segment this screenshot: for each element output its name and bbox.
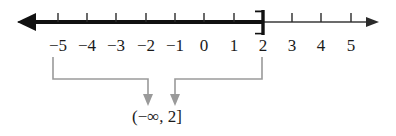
- leader-from-negative-infinity: [53, 57, 148, 98]
- arrow-down-icon-left: [143, 94, 153, 106]
- arrow-down-icon-right: [170, 94, 180, 106]
- tick-label-0: 0: [187, 37, 221, 54]
- tick-label-5: 5: [334, 37, 368, 54]
- interval-notation-label: (−∞, 2]: [97, 108, 217, 125]
- arrow-right-icon: [366, 17, 379, 27]
- arrow-left-icon: [17, 13, 36, 31]
- leader-from-endpoint-two: [175, 57, 262, 98]
- tick-label-neg3: −3: [99, 37, 133, 54]
- tick-label-4: 4: [304, 37, 338, 54]
- number-line-figure: −5 −4 −3 −2 −1 0 1 2 3 4 5 (−∞, 2]: [0, 0, 396, 136]
